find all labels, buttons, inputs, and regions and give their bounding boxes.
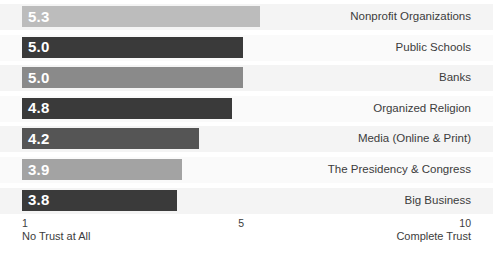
bar[interactable]: 5.0 — [22, 67, 243, 88]
axis-tick-min: 1 No Trust at All — [22, 217, 90, 244]
bar[interactable]: 4.8 — [22, 98, 232, 119]
axis-tick-min-value: 1 — [22, 217, 90, 230]
category-label: Big Business — [405, 190, 471, 211]
axis-tick-mid: 5 — [238, 217, 244, 230]
bar-chart: 5.3Nonprofit Organizations5.0Public Scho… — [0, 0, 493, 256]
bar-row[interactable]: 4.8Organized Religion — [0, 93, 493, 124]
category-label: Public Schools — [396, 37, 471, 58]
bar-value-label: 5.0 — [28, 70, 49, 85]
axis-tick-min-caption: No Trust at All — [22, 230, 90, 244]
bar[interactable]: 4.2 — [22, 128, 199, 149]
bar-value-label: 4.2 — [28, 131, 49, 146]
bar[interactable]: 5.0 — [22, 37, 243, 58]
axis-tick-max: 10 Complete Trust — [396, 217, 471, 244]
bar-row[interactable]: 5.3Nonprofit Organizations — [0, 1, 493, 32]
bar-value-label: 5.3 — [28, 9, 49, 24]
category-label: Banks — [439, 67, 471, 88]
category-label: The Presidency & Congress — [328, 159, 471, 180]
axis-tick-max-caption: Complete Trust — [396, 230, 471, 244]
bar[interactable]: 5.3 — [22, 6, 260, 27]
bar[interactable]: 3.9 — [22, 159, 182, 180]
bar-value-label: 4.8 — [28, 100, 49, 115]
x-axis: 1 No Trust at All 5 10 Complete Trust — [0, 213, 493, 256]
plot-area: 5.3Nonprofit Organizations5.0Public Scho… — [0, 0, 493, 213]
axis-tick-max-value: 10 — [396, 217, 471, 230]
bar-value-label: 3.8 — [28, 192, 49, 207]
bar-value-label: 5.0 — [28, 39, 49, 54]
bar-row[interactable]: 5.0Public Schools — [0, 32, 493, 63]
category-label: Organized Religion — [373, 98, 471, 119]
bar[interactable]: 3.8 — [22, 190, 177, 211]
category-label: Nonprofit Organizations — [350, 6, 471, 27]
bar-row[interactable]: 4.2Media (Online & Print) — [0, 123, 493, 154]
category-label: Media (Online & Print) — [358, 128, 471, 149]
bar-value-label: 3.9 — [28, 162, 49, 177]
bar-row[interactable]: 3.9The Presidency & Congress — [0, 154, 493, 185]
axis-tick-mid-value: 5 — [238, 217, 244, 230]
bar-row[interactable]: 3.8Big Business — [0, 185, 493, 216]
bar-row[interactable]: 5.0Banks — [0, 62, 493, 93]
